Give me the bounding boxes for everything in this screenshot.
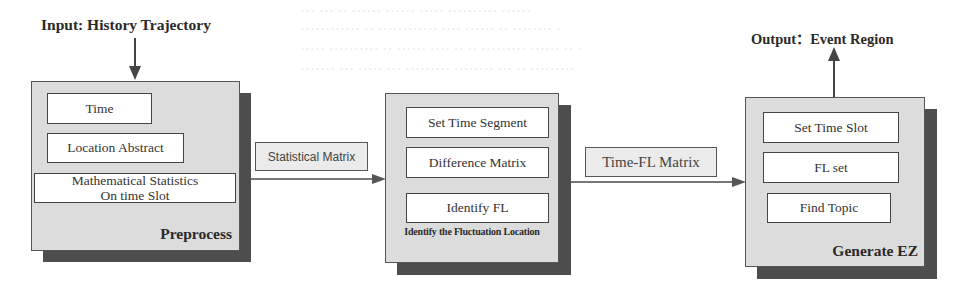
step-difference-matrix: Difference Matrix <box>406 147 549 178</box>
step-mathematical-statistics: Mathematical Statistics On time Slot <box>34 173 236 203</box>
step-identify-fl-label: Identify FL <box>447 201 509 215</box>
step-fl-set: FL set <box>763 152 899 183</box>
connector-1-line <box>251 178 373 180</box>
step-difference-matrix-label: Difference Matrix <box>429 156 527 170</box>
connector-statistical-matrix-label: Statistical Matrix <box>255 142 368 171</box>
step-set-time-slot-label: Set Time Slot <box>794 121 868 135</box>
connector-2-arrow-icon <box>732 177 746 187</box>
output-label: Output：Event Region <box>751 27 894 48</box>
input-arrow-head-icon <box>129 66 141 80</box>
step-set-time-segment-label: Set Time Segment <box>428 116 527 130</box>
generate-title: Generate EZ <box>820 242 918 260</box>
step-set-time-slot: Set Time Slot <box>763 112 899 143</box>
step-set-time-segment: Set Time Segment <box>406 107 549 138</box>
statistical-matrix-text: Statistical Matrix <box>268 150 355 164</box>
output-arrow-head-icon <box>828 47 840 61</box>
step-find-topic: Find Topic <box>767 193 891 223</box>
step-time-label: Time <box>85 102 113 116</box>
step-time: Time <box>47 93 152 124</box>
step-fl-set-label: FL set <box>814 161 848 175</box>
preprocess-title: Preprocess <box>150 225 232 243</box>
step-find-topic-label: Find Topic <box>800 201 858 215</box>
connector-time-fl-matrix-label: Time-FL Matrix <box>585 147 717 177</box>
input-label: Input: History Trajectory <box>41 16 211 34</box>
connector-1-arrow-icon <box>372 174 386 184</box>
step-location-abstract: Location Abstract <box>47 133 184 163</box>
step-math-stats-line2: On time Slot <box>100 188 169 203</box>
time-fl-matrix-text: Time-FL Matrix <box>602 154 700 171</box>
output-arrow-shaft <box>833 60 835 97</box>
step-math-stats-line1: Mathematical Statistics <box>72 173 198 188</box>
step-location-abstract-label: Location Abstract <box>67 141 163 155</box>
connector-2-line <box>571 181 733 183</box>
identify-title: Identify the Fluctuation Location <box>386 226 558 237</box>
step-identify-fl: Identify FL <box>406 193 549 223</box>
input-arrow-shaft <box>134 38 136 68</box>
